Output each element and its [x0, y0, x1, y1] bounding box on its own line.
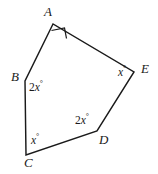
angle-c-degree-symbol: °	[36, 132, 39, 141]
angle-label-b: 2x°	[29, 80, 43, 93]
angle-e-degree-symbol: °	[123, 64, 126, 73]
geometry-figure: A B C D E 2x° x° 2x° x°	[0, 0, 158, 174]
pentagon-diagram-svg	[0, 0, 158, 174]
angle-b-degree-symbol: °	[40, 79, 43, 88]
angle-label-d: 2x°	[75, 113, 89, 126]
vertex-label-d: D	[99, 133, 108, 146]
angle-d-degree-symbol: °	[86, 112, 89, 121]
vertex-label-c: C	[24, 156, 33, 169]
angle-label-c: x°	[31, 133, 39, 146]
vertex-label-e: E	[141, 62, 149, 75]
angle-label-e: x°	[118, 65, 126, 78]
vertex-label-b: B	[11, 70, 19, 83]
right-angle-square-icon	[52, 28, 67, 39]
vertex-label-a: A	[44, 5, 52, 18]
